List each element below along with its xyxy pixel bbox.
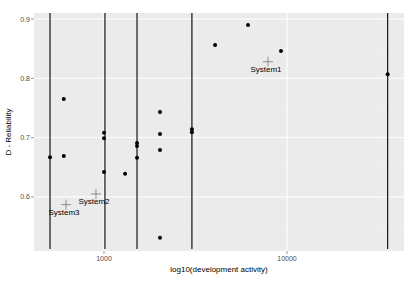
data-point <box>62 97 66 101</box>
system-label: System2 <box>78 197 110 206</box>
data-point <box>279 49 283 53</box>
x-tick-label: 10000 <box>277 255 297 262</box>
y-tick-label: 0.7 <box>20 134 30 141</box>
data-point <box>135 144 139 148</box>
y-tick-label: 0.8 <box>20 75 30 82</box>
x-tick-label: 1000 <box>96 255 112 262</box>
data-point <box>62 154 66 158</box>
y-axis-ticks: 0.60.70.80.9 <box>20 16 34 201</box>
y-tick-label: 0.6 <box>20 193 30 200</box>
system-label: System1 <box>250 65 282 74</box>
data-point <box>158 236 162 240</box>
data-point <box>135 156 139 160</box>
data-point <box>386 72 390 76</box>
y-tick-label: 0.9 <box>20 16 30 23</box>
data-point <box>246 23 250 27</box>
data-point <box>190 130 194 134</box>
system-label: System3 <box>48 208 80 217</box>
data-point <box>102 131 106 135</box>
data-point <box>102 170 106 174</box>
data-point <box>213 43 217 47</box>
data-point <box>102 136 106 140</box>
y-axis-title: D - Reliability <box>4 108 13 155</box>
data-point <box>158 132 162 136</box>
data-point <box>158 148 162 152</box>
data-point <box>123 172 127 176</box>
x-axis-title: log10(development activity) <box>170 265 268 274</box>
data-point <box>158 110 162 114</box>
x-axis-ticks: 100010000 <box>96 251 297 262</box>
scatter-chart: System1System2System3 0.60.70.80.9 10001… <box>0 0 414 281</box>
data-point <box>48 155 52 159</box>
